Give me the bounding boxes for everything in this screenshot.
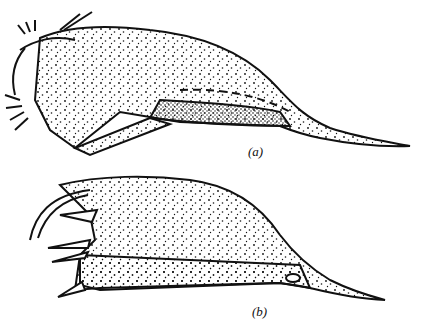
illustration-canvas: (a) (b) bbox=[0, 0, 438, 335]
figure-a-drawing bbox=[5, 12, 410, 155]
stipple-drawings bbox=[0, 0, 438, 335]
figure-b-drawing bbox=[30, 177, 385, 300]
figure-label-b: (b) bbox=[252, 304, 267, 320]
figure-label-a: (a) bbox=[248, 144, 263, 160]
